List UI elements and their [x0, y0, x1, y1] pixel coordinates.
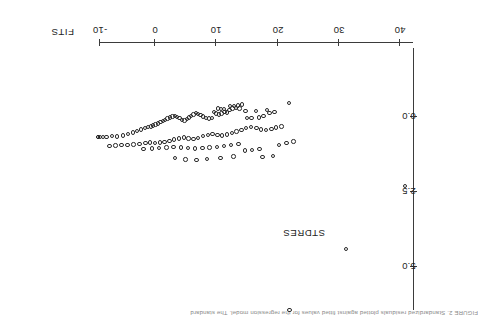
scatter-point: [240, 102, 244, 106]
scatter-point: [269, 127, 273, 131]
scatter-point: [279, 124, 283, 128]
scatter-point: [218, 156, 222, 160]
scatter-point: [172, 137, 176, 141]
scatter-point: [287, 101, 291, 105]
scatter-point: [206, 133, 210, 137]
scatter-point: [230, 131, 234, 135]
scatter-point: [143, 141, 147, 145]
scatter-point: [115, 134, 119, 138]
scatter-point: [200, 146, 204, 150]
scatter-point: [287, 308, 291, 312]
scatter-point: [271, 154, 275, 158]
scatter-point: [183, 157, 187, 161]
scatter-plot-area: [0, 0, 500, 323]
scatter-point: [250, 148, 254, 152]
scatter-point: [231, 154, 235, 158]
scatter-point: [177, 136, 181, 140]
scatter-point: [121, 133, 125, 137]
scatter-point: [186, 146, 190, 150]
scatter-point: [222, 144, 226, 148]
scatter-point: [254, 126, 258, 130]
scatter-point: [272, 110, 276, 114]
scatter-point: [249, 116, 253, 120]
scatter-point: [291, 139, 295, 143]
scatter-point: [220, 133, 224, 137]
scatter-point: [153, 141, 157, 145]
scatter-point: [201, 134, 205, 138]
scatter-point: [164, 145, 168, 149]
scatter-point: [158, 140, 162, 144]
scatter-point: [191, 137, 195, 141]
scatter-point: [243, 148, 247, 152]
scatter-point: [267, 111, 271, 115]
scatter-point: [173, 156, 177, 160]
scatter-point: [264, 128, 268, 132]
scatter-point: [135, 129, 139, 133]
scatter-point: [142, 147, 146, 151]
scatter-point: [113, 143, 117, 147]
scatter-point: [125, 143, 129, 147]
scatter-point: [244, 126, 248, 130]
scatter-point: [148, 140, 152, 144]
scatter-point: [243, 109, 247, 113]
scatter-point: [143, 126, 147, 130]
scatter-point: [257, 147, 261, 151]
scatter-point: [172, 145, 176, 149]
scatter-point: [261, 114, 265, 118]
scatter-point: [163, 140, 167, 144]
scatter-point: [126, 132, 130, 136]
scatter-point: [186, 136, 190, 140]
scatter-point: [249, 125, 253, 129]
scatter-point: [110, 134, 114, 138]
scatter-point: [139, 127, 143, 131]
scatter-point: [274, 125, 278, 129]
scatter-point: [236, 142, 240, 146]
figure-canvas: FIGURE 2. Standardized residuals plotted…: [0, 0, 500, 323]
scatter-point: [107, 144, 111, 148]
scatter-point: [210, 132, 214, 136]
scatter-point: [229, 143, 233, 147]
scatter-point: [119, 143, 123, 147]
scatter-point: [194, 158, 198, 162]
scatter-point: [403, 184, 407, 188]
scatter-point: [193, 146, 197, 150]
scatter-point: [167, 139, 171, 143]
scatter-point: [196, 136, 200, 140]
scatter-point: [284, 141, 288, 145]
scatter-point: [131, 130, 135, 134]
scatter-point: [259, 127, 263, 131]
scatter-point: [277, 143, 281, 147]
scatter-point: [137, 142, 141, 146]
scatter-point: [344, 247, 348, 251]
scatter-point: [215, 145, 219, 149]
scatter-point: [205, 157, 209, 161]
scatter-point: [225, 132, 229, 136]
scatter-point: [254, 109, 258, 113]
scatter-point: [207, 145, 211, 149]
scatter-point: [260, 155, 264, 159]
scatter-point: [179, 145, 183, 149]
scatter-point: [215, 133, 219, 137]
scatter-point: [239, 128, 243, 132]
scatter-point: [257, 115, 261, 119]
scatter-point: [150, 146, 154, 150]
scatter-point: [157, 146, 161, 150]
scatter-point: [216, 106, 220, 110]
scatter-point: [245, 116, 249, 120]
scatter-point: [234, 129, 238, 133]
scatter-point: [131, 142, 135, 146]
scatter-point: [182, 135, 186, 139]
